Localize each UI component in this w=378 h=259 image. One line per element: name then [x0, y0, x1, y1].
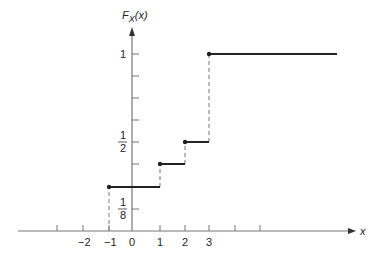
svg-text:2: 2: [182, 236, 188, 248]
svg-text:−2: −2: [78, 236, 91, 248]
svg-text:1: 1: [120, 196, 126, 208]
svg-text:1: 1: [157, 236, 163, 248]
x-tick-labels: −2 −1 0 1 2 3: [78, 236, 212, 248]
jump-points: [107, 52, 211, 189]
x-ticks: [57, 225, 260, 231]
svg-text:1: 1: [120, 48, 126, 60]
cdf-step-chart: x FX(x) −2 −1 0 1 2 3 1 1 2 1: [0, 0, 378, 259]
svg-text:2: 2: [120, 142, 126, 154]
y-axis-label: FX(x): [122, 9, 148, 24]
svg-text:8: 8: [120, 209, 126, 221]
cdf-steps: [109, 54, 337, 187]
svg-text:1: 1: [120, 129, 126, 141]
y-ticks: [132, 54, 139, 209]
y-axis-arrow-icon: [129, 27, 135, 36]
svg-text:−1: −1: [104, 236, 117, 248]
svg-text:0: 0: [129, 236, 135, 248]
svg-text:3: 3: [206, 236, 212, 248]
x-axis-label: x: [359, 225, 366, 237]
y-tick-labels: 1 1 2 1 8: [118, 48, 127, 221]
x-axis-arrow-icon: [348, 228, 356, 234]
